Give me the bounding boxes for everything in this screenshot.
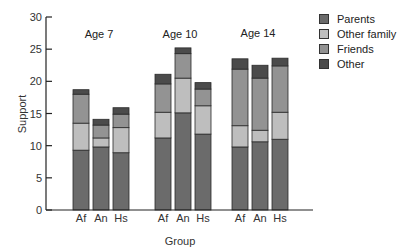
bar-segment-other-family [155, 112, 171, 138]
bar-segment-parents [252, 142, 268, 210]
y-axis: 051015202530 [30, 11, 52, 216]
bar-segment-friends [155, 84, 171, 112]
x-tick-label: An [94, 212, 107, 224]
bar-age-14-hs [272, 58, 288, 210]
group-label: Age 10 [163, 28, 198, 40]
legend-label-parents: Parents [337, 13, 375, 25]
group-labels: Age 7Age 10Age 14 [85, 27, 276, 40]
bar-age-7-af [73, 90, 89, 210]
bar-segment-other-family [195, 106, 211, 134]
y-tick-label: 15 [30, 108, 42, 120]
x-tick-label: Hs [196, 212, 210, 224]
bar-segment-other [232, 59, 248, 69]
y-tick-label: 30 [30, 11, 42, 23]
group-label: Age 7 [85, 28, 114, 40]
bar-segment-other-family [272, 112, 288, 139]
bar-segment-friends [195, 89, 211, 106]
legend-swatch-parents [319, 14, 329, 24]
x-tick-label: An [176, 212, 189, 224]
x-tick-label: Af [76, 212, 87, 224]
bar-segment-friends [73, 94, 89, 123]
bar-segment-parents [272, 139, 288, 210]
bar-segment-parents [73, 150, 89, 210]
y-tick-label: 10 [30, 140, 42, 152]
bar-segment-other [252, 65, 268, 78]
bar-age-10-an [175, 48, 191, 210]
legend-item-other: Other [319, 56, 396, 71]
bar-segment-other [155, 74, 171, 84]
bar-segment-other-family [73, 123, 89, 150]
legend-label-other: Other [337, 58, 365, 70]
bar-segment-parents [232, 147, 248, 210]
legend-item-parents: Parents [319, 11, 396, 26]
x-tick-label: An [253, 212, 266, 224]
x-tick-label: Hs [114, 212, 128, 224]
legend-item-friends: Friends [319, 41, 396, 56]
bar-segment-parents [175, 113, 191, 210]
bar-age-10-hs [195, 83, 211, 210]
bar-segment-other [272, 58, 288, 66]
bar-segment-friends [113, 114, 129, 128]
bar-segment-other [113, 108, 129, 114]
bar-segment-other-family [232, 126, 248, 147]
y-tick-label: 5 [36, 172, 42, 184]
bar-segment-other-family [93, 138, 109, 147]
bar-age-7-an [93, 119, 109, 210]
bar-segment-other-family [175, 78, 191, 113]
y-axis-title: Support [16, 95, 28, 134]
group-label: Age 14 [241, 27, 276, 39]
bar-segment-parents [195, 134, 211, 210]
bar-segment-other-family [113, 128, 129, 153]
bar-segment-friends [93, 125, 109, 138]
bar-segment-friends [272, 66, 288, 112]
legend-item-other-family: Other family [319, 26, 396, 41]
bar-segment-other [73, 90, 89, 95]
bar-segment-other [93, 119, 109, 125]
y-tick-label: 20 [30, 75, 42, 87]
legend-swatch-other [319, 59, 329, 69]
x-tick-label: Hs [273, 212, 287, 224]
legend-swatch-other-family [319, 29, 329, 39]
bar-age-10-af [155, 74, 171, 210]
bar-segment-other [175, 48, 191, 54]
bar-age-7-hs [113, 108, 129, 210]
y-tick-label: 0 [36, 204, 42, 216]
bar-age-14-an [252, 65, 268, 210]
bar-segment-friends [252, 78, 268, 130]
bars [73, 48, 288, 210]
x-axis: AfAnHsAfAnHsAfAnHs [46, 210, 313, 224]
x-axis-title: Group [165, 235, 196, 247]
x-tick-label: Af [158, 212, 169, 224]
bar-age-14-af [232, 59, 248, 210]
legend-label-other-family: Other family [337, 28, 396, 40]
legend-label-friends: Friends [337, 43, 374, 55]
bar-segment-parents [113, 153, 129, 210]
legend-swatch-friends [319, 44, 329, 54]
bar-segment-parents [155, 138, 171, 210]
x-tick-label: Af [235, 212, 246, 224]
bar-segment-parents [93, 147, 109, 210]
bar-segment-friends [232, 69, 248, 126]
bar-segment-friends [175, 54, 191, 78]
y-tick-label: 25 [30, 43, 42, 55]
bar-segment-other-family [252, 130, 268, 142]
bar-segment-other [195, 83, 211, 89]
legend: Parents Other family Friends Other [319, 11, 396, 71]
